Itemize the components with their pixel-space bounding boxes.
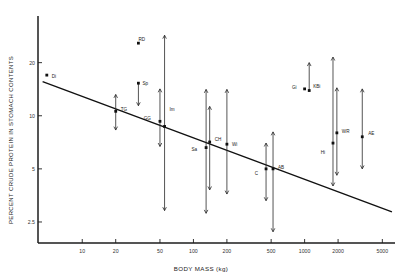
point-label-TG: TG bbox=[121, 107, 128, 112]
point-label-GG: GG bbox=[144, 116, 152, 121]
data-point-Sp bbox=[137, 82, 140, 85]
x-tick-label-10: 10 bbox=[79, 248, 85, 254]
x-tick-label-100: 100 bbox=[189, 248, 198, 254]
data-point-GG bbox=[159, 120, 162, 123]
data-point-Gi bbox=[303, 87, 306, 90]
scatter-plot-canvas: 1020501002005001000200050002.551020 DiRD… bbox=[0, 0, 403, 278]
regression-line bbox=[43, 82, 392, 212]
data-point-Sa bbox=[205, 146, 208, 149]
point-label-C: C bbox=[255, 171, 259, 176]
point-label-Sa: Sa bbox=[191, 147, 197, 152]
y-axis-title: PERCENT CRUDE PROTEIN IN STOMACH CONTENT… bbox=[8, 56, 14, 224]
data-point-TG bbox=[114, 110, 117, 113]
y-tick-label-5: 5 bbox=[32, 166, 35, 172]
axis-titles-layer: BODY MASS (kg) PERCENT CRUDE PROTEIN IN … bbox=[8, 56, 228, 272]
chart-figure: 1020501002005001000200050002.551020 DiRD… bbox=[0, 0, 403, 278]
x-axis-title: BODY MASS (kg) bbox=[174, 265, 229, 272]
point-labels-layer: DiRDTGSpGGImSaCHWiCABGiKBiHiWRAE bbox=[52, 37, 375, 177]
data-point-Wi bbox=[226, 143, 229, 146]
point-label-AB: AB bbox=[278, 165, 284, 170]
axes-layer: 1020501002005001000200050002.551020 bbox=[28, 16, 395, 254]
y-tick-label-20: 20 bbox=[29, 60, 35, 66]
y-tick-label-10: 10 bbox=[29, 113, 35, 119]
x-tick-label-50: 50 bbox=[157, 248, 163, 254]
data-point-AE bbox=[361, 135, 364, 138]
y-tick-label-2.5: 2.5 bbox=[28, 219, 35, 225]
x-tick-label-1000: 1000 bbox=[299, 248, 311, 254]
x-tick-label-5000: 5000 bbox=[377, 248, 389, 254]
x-tick-label-2000: 2000 bbox=[332, 248, 344, 254]
regression-layer bbox=[43, 82, 392, 212]
x-tick-label-200: 200 bbox=[223, 248, 232, 254]
markers-layer bbox=[45, 42, 363, 171]
point-label-Wi: Wi bbox=[232, 142, 237, 147]
data-point-Im bbox=[163, 125, 166, 128]
data-point-RD bbox=[137, 42, 140, 45]
point-label-Im: Im bbox=[170, 107, 175, 112]
point-label-WR: WR bbox=[342, 129, 350, 134]
data-point-Hi bbox=[332, 142, 335, 145]
point-label-KBi: KBi bbox=[313, 84, 320, 89]
data-point-C bbox=[265, 167, 268, 170]
data-point-WR bbox=[335, 131, 338, 134]
point-label-Sp: Sp bbox=[142, 81, 148, 86]
data-point-KBi bbox=[308, 89, 311, 92]
point-label-Gi: Gi bbox=[292, 85, 297, 90]
data-point-CH bbox=[208, 141, 211, 144]
point-label-Di: Di bbox=[52, 74, 56, 79]
data-point-Di bbox=[45, 74, 48, 77]
point-label-CH: CH bbox=[215, 137, 222, 142]
point-label-AE: AE bbox=[368, 131, 374, 136]
x-tick-label-500: 500 bbox=[267, 248, 276, 254]
errorbars-layer bbox=[114, 35, 364, 232]
x-tick-label-20: 20 bbox=[113, 248, 119, 254]
data-point-AB bbox=[272, 167, 275, 170]
point-label-RD: RD bbox=[138, 37, 145, 42]
point-label-Hi: Hi bbox=[321, 150, 325, 155]
